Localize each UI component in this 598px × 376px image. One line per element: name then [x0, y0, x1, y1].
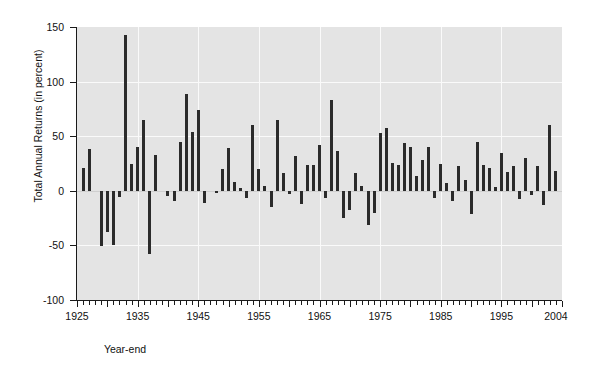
bar — [476, 142, 479, 191]
bar — [530, 191, 533, 195]
x-tick-major — [138, 301, 139, 307]
x-tick-minor — [465, 301, 466, 305]
bar — [124, 35, 127, 191]
x-tick-major — [380, 301, 381, 307]
bar — [451, 191, 454, 201]
x-tick-minor — [126, 301, 127, 305]
bar — [282, 173, 285, 191]
x-tick-minor — [150, 301, 151, 305]
x-tick-minor — [247, 301, 248, 305]
bar — [294, 156, 297, 191]
bar — [548, 125, 551, 191]
x-tick-minor — [362, 301, 363, 305]
y-axis-line — [76, 27, 77, 301]
x-tick-major — [229, 301, 230, 307]
x-tick-minor — [89, 301, 90, 305]
bar — [82, 168, 85, 191]
x-tick-minor — [550, 301, 551, 305]
x-tick-label: 1945 — [175, 310, 221, 322]
x-tick-minor — [271, 301, 272, 305]
x-tick-major — [471, 301, 472, 307]
chart-root: Total Annual Returns (in percent) 150100… — [0, 0, 598, 376]
x-tick-minor — [459, 301, 460, 305]
bar — [142, 120, 145, 191]
x-tick-minor — [101, 301, 102, 305]
bar — [464, 180, 467, 191]
bar — [148, 191, 151, 254]
x-tick-minor — [338, 301, 339, 305]
x-tick-minor — [556, 301, 557, 305]
bar — [245, 191, 248, 198]
bar — [512, 166, 515, 191]
bar — [427, 147, 430, 190]
bar — [166, 191, 169, 197]
x-tick-minor — [398, 301, 399, 305]
x-tick-minor — [235, 301, 236, 305]
x-tick-minor — [386, 301, 387, 305]
bar — [518, 191, 521, 199]
bar — [336, 151, 339, 190]
y-tick — [70, 300, 76, 301]
x-tick-label: 1985 — [418, 310, 464, 322]
y-tick — [70, 82, 76, 83]
x-tick-minor — [277, 301, 278, 305]
x-tick-minor — [144, 301, 145, 305]
x-tick-label: 1935 — [115, 310, 161, 322]
x-tick-minor — [223, 301, 224, 305]
x-tick-minor — [332, 301, 333, 305]
bar — [251, 125, 254, 191]
x-tick-minor — [326, 301, 327, 305]
x-tick-minor — [356, 301, 357, 305]
bar — [360, 186, 363, 191]
bar — [154, 155, 157, 191]
bar — [173, 191, 176, 201]
x-tick-major — [107, 301, 108, 307]
bar — [106, 191, 109, 232]
x-tick-minor — [313, 301, 314, 305]
bar-series — [77, 27, 562, 300]
bar — [324, 191, 327, 199]
bar — [112, 191, 115, 245]
x-tick-minor — [156, 301, 157, 305]
y-tick — [70, 191, 76, 192]
x-tick-minor — [404, 301, 405, 305]
bar — [227, 148, 230, 190]
bar — [239, 188, 242, 191]
bar — [354, 173, 357, 191]
x-tick-label: 1955 — [236, 310, 282, 322]
bar — [185, 94, 188, 191]
x-tick-minor — [204, 301, 205, 305]
x-tick-label: 1925 — [54, 310, 100, 322]
bar — [554, 171, 557, 191]
bar — [191, 132, 194, 191]
bar — [367, 191, 370, 225]
bar — [330, 100, 333, 191]
x-tick-minor — [83, 301, 84, 305]
bar — [488, 168, 491, 191]
bar — [233, 182, 236, 191]
bar — [312, 165, 315, 191]
bar — [457, 166, 460, 191]
bar — [342, 191, 345, 218]
x-tick-minor — [368, 301, 369, 305]
x-tick-minor — [113, 301, 114, 305]
x-tick-minor — [344, 301, 345, 305]
x-tick-minor — [265, 301, 266, 305]
x-tick-minor — [483, 301, 484, 305]
x-tick-minor — [392, 301, 393, 305]
x-tick-minor — [453, 301, 454, 305]
bar — [373, 191, 376, 213]
bar — [433, 191, 436, 198]
bar — [524, 158, 527, 191]
bar — [118, 191, 121, 197]
bar — [270, 191, 273, 207]
x-tick-major — [532, 301, 533, 307]
x-tick-minor — [162, 301, 163, 305]
bar — [100, 191, 103, 247]
bar — [506, 172, 509, 191]
x-tick-minor — [544, 301, 545, 305]
bar — [203, 191, 206, 204]
bar — [257, 169, 260, 191]
bar — [391, 163, 394, 191]
bar — [439, 164, 442, 191]
